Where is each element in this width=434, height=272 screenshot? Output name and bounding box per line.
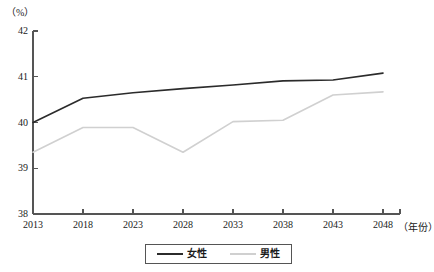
x-tick-label: 2038 <box>260 220 306 230</box>
x-axis-unit-label: （年份） <box>398 219 434 234</box>
chart-legend: 女性男性 <box>145 244 292 264</box>
legend-item-1[interactable]: 女性 <box>157 249 207 259</box>
x-tick-label: 2043 <box>310 220 356 230</box>
legend-line-icon <box>157 253 183 255</box>
x-tick-label: 2033 <box>210 220 256 230</box>
series-line-2 <box>33 92 383 152</box>
line-chart: （%） 3839404142 2013201820232028203320382… <box>0 0 434 272</box>
series-lines <box>33 73 383 152</box>
axes <box>33 31 400 214</box>
x-tick-label: 2028 <box>160 220 206 230</box>
legend-line-icon <box>230 253 256 255</box>
legend-item-2[interactable]: 男性 <box>230 249 280 259</box>
x-tick-label: 2018 <box>60 220 106 230</box>
series-line-1 <box>33 73 383 122</box>
x-tick-label: 2023 <box>110 220 156 230</box>
plot-area <box>0 0 434 272</box>
x-tick-label: 2013 <box>10 220 56 230</box>
legend-label: 男性 <box>260 249 280 259</box>
legend-label: 女性 <box>187 249 207 259</box>
